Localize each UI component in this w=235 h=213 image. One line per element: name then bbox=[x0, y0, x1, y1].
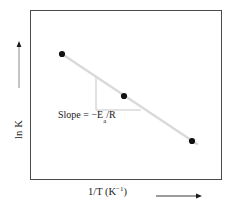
y-axis-label-group: ln K bbox=[4, 38, 34, 178]
slope-annotation: Slope = −Ea/R bbox=[58, 109, 116, 120]
x-axis-label-close: ) bbox=[124, 186, 128, 197]
arrhenius-plot-figure: ln K 1/T (K−1) Slope = −Ea/R bbox=[0, 0, 235, 213]
x-axis-arrow-icon bbox=[156, 194, 202, 199]
plot-frame bbox=[30, 10, 222, 180]
slope-annotation-subscript: a bbox=[103, 117, 106, 124]
y-axis-label: ln K bbox=[13, 108, 24, 152]
x-axis-label-main: 1/T (K bbox=[88, 186, 116, 197]
slope-annotation-suffix: /R bbox=[106, 109, 115, 120]
x-axis-label-exponent: −1 bbox=[116, 185, 123, 193]
slope-annotation-prefix: Slope = −E bbox=[58, 109, 103, 120]
x-axis-label: 1/T (K−1) bbox=[88, 186, 127, 197]
